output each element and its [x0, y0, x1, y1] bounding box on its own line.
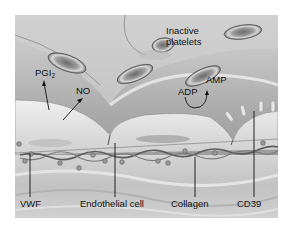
label-pgi2-base: PGI	[35, 67, 51, 78]
label-vwf: VWF	[20, 199, 41, 209]
endothelium-illustration: Inactive platelets PGI2 NO AMP ADP VWF E…	[15, 15, 278, 218]
label-pgi2: PGI2	[35, 68, 55, 80]
label-endothelial-cell: Endothelial cell	[80, 199, 144, 209]
label-pgi2-sub: 2	[51, 72, 55, 79]
label-collagen: Collagen	[171, 199, 209, 209]
nucleus	[136, 135, 190, 143]
label-inactive-platelets: Inactive platelets	[166, 25, 201, 47]
label-inactive-line2: platelets	[166, 36, 201, 47]
label-inactive-line1: Inactive	[166, 25, 201, 36]
illustration-artwork	[15, 15, 278, 218]
label-no: NO	[76, 86, 90, 96]
label-amp: AMP	[206, 75, 227, 85]
label-cd39: CD39	[237, 199, 261, 209]
label-adp: ADP	[178, 87, 198, 97]
